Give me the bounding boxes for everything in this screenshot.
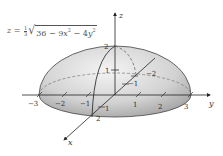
x-tick-label: 2 <box>96 115 100 123</box>
x-tick-label: −1 <box>128 80 138 88</box>
ellipsoid-diagram: −3 −2 −1 1 2 3 −2 −1 1 2 1 2 z y x <box>0 0 223 156</box>
y-tick-label: 1 <box>133 101 137 109</box>
z-axis-label: z <box>118 11 124 20</box>
x-axis-label: x <box>68 138 73 147</box>
z-tick-label: 1 <box>105 67 109 75</box>
x-tick-label: 1 <box>105 105 109 113</box>
y-tick-label: −3 <box>28 100 38 108</box>
z-tick-label: 2 <box>104 43 108 51</box>
x-tick-label: −2 <box>146 70 156 78</box>
y-tick-label: −1 <box>80 100 90 108</box>
y-axis-label: y <box>208 99 214 108</box>
y-tick-label: 2 <box>158 103 162 111</box>
y-tick-label: −2 <box>55 100 65 108</box>
y-tick-label: 3 <box>184 103 188 111</box>
